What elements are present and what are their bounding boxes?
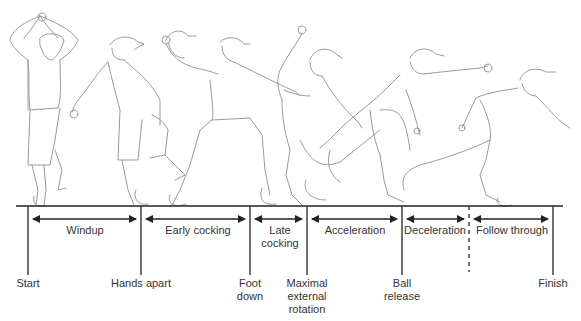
figure-follow-through: [403, 69, 570, 206]
event-label-ball-release-1: Ball: [382, 277, 422, 290]
event-label-mer-3: rotation: [282, 303, 332, 316]
phase-label-windup: Windup: [55, 224, 115, 237]
figure-windup: [10, 13, 78, 206]
event-label-finish: Finish: [533, 277, 573, 290]
event-label-mer-2: external: [282, 290, 332, 303]
diagram-canvas: [0, 0, 581, 321]
figure-ball-release: [320, 49, 492, 202]
figure-early-cocking: [162, 31, 300, 205]
event-label-foot-down-1: Foot: [232, 277, 268, 290]
phase-label-late-cocking-2: cocking: [255, 237, 305, 250]
figure-hands-apart: [70, 37, 185, 205]
pitching-phase-diagram: Windup Early cocking Late cocking Accele…: [0, 0, 581, 321]
event-label-ball-release-2: release: [382, 290, 422, 303]
phase-label-acceleration: Acceleration: [315, 224, 395, 237]
phase-label-early-cocking: Early cocking: [155, 224, 241, 237]
event-label-hands-apart: Hands apart: [106, 277, 176, 290]
phase-label-late-cocking-1: Late: [255, 224, 305, 237]
figure-late-cocking: [278, 26, 380, 205]
event-label-start: Start: [10, 277, 46, 290]
event-label-mer-1: Maximal: [282, 277, 332, 290]
event-label-foot-down-2: down: [232, 290, 268, 303]
phase-label-deceleration: Deceleration: [403, 224, 467, 237]
phase-label-follow-through: Follow through: [472, 224, 552, 237]
